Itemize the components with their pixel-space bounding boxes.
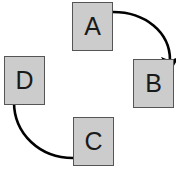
node-box-b[interactable]: B <box>133 59 174 108</box>
node-box-d[interactable]: D <box>4 56 45 105</box>
diagram-canvas: A B C D <box>0 0 176 171</box>
node-label-a: A <box>84 14 101 39</box>
node-box-a[interactable]: A <box>72 2 113 51</box>
node-box-c[interactable]: C <box>73 117 114 166</box>
arrow-c-to-d <box>14 102 73 158</box>
node-label-c: C <box>84 129 102 154</box>
node-label-d: D <box>15 68 33 93</box>
arrow-a-to-b <box>113 12 170 60</box>
node-label-b: B <box>145 71 162 96</box>
